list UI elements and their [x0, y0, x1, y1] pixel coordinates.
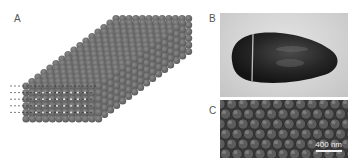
- sphere: [131, 55, 138, 62]
- micro-sphere: [243, 129, 253, 139]
- micro-sphere-highlight: [251, 100, 255, 104]
- micro-sphere-highlight: [326, 110, 330, 114]
- sphere: [62, 115, 69, 122]
- dot: [56, 112, 58, 114]
- dot: [63, 92, 65, 94]
- micro-sphere-highlight: [320, 120, 324, 124]
- micro-sphere-highlight: [222, 130, 226, 134]
- dot: [84, 92, 86, 94]
- micro-sphere: [289, 129, 299, 139]
- sphere: [36, 115, 43, 122]
- micro-sphere-highlight: [343, 100, 347, 104]
- micro-sphere: [220, 109, 230, 119]
- dot: [77, 112, 79, 114]
- sphere-array-schematic: [0, 0, 200, 162]
- panel-label-c: C: [209, 106, 216, 116]
- micro-sphere-highlight: [268, 110, 272, 114]
- sphere: [155, 37, 162, 44]
- sphere: [82, 115, 89, 122]
- micro-sphere-highlight: [245, 110, 249, 114]
- micro-sphere: [220, 119, 225, 129]
- sphere: [137, 51, 144, 58]
- micro-sphere-highlight: [326, 130, 330, 134]
- micro-sphere: [347, 149, 348, 158]
- micro-sphere-highlight: [263, 100, 267, 104]
- sphere-grid: [22, 15, 192, 123]
- micro-sphere-highlight: [343, 120, 347, 124]
- dot: [77, 105, 79, 107]
- dot: [84, 105, 86, 107]
- sphere: [119, 64, 126, 71]
- micro-sphere-highlight: [234, 130, 238, 134]
- micro-sphere-highlight: [257, 150, 261, 154]
- micro-sphere-highlight: [234, 110, 238, 114]
- sphere: [113, 69, 120, 76]
- sphere: [49, 115, 56, 122]
- micro-sphere-highlight: [291, 150, 295, 154]
- sphere: [167, 28, 174, 35]
- micro-sphere-highlight: [303, 150, 307, 154]
- micro-sphere: [278, 109, 288, 119]
- sphere: [69, 115, 76, 122]
- dot: [63, 98, 65, 100]
- dot: [56, 105, 58, 107]
- micro-sphere: [220, 100, 225, 109]
- micro-sphere-highlight: [309, 100, 313, 104]
- photo-panel-b: [220, 13, 348, 97]
- micro-sphere: [335, 109, 345, 119]
- dot: [49, 92, 51, 94]
- dot: [84, 112, 86, 114]
- sphere: [125, 60, 132, 67]
- micro-sphere-highlight: [303, 130, 307, 134]
- scale-bar: 400 nm: [315, 140, 342, 152]
- micro-sphere: [261, 119, 271, 129]
- sphere: [95, 82, 102, 89]
- micro-sphere-highlight: [240, 100, 244, 104]
- sphere: [95, 109, 102, 116]
- dot: [42, 92, 44, 94]
- panel-label-b: B: [209, 14, 216, 24]
- micro-sphere: [226, 139, 236, 149]
- micro-sphere-highlight: [286, 100, 290, 104]
- micro-sphere-highlight: [257, 110, 261, 114]
- dot: [35, 98, 37, 100]
- micro-sphere: [238, 139, 248, 149]
- micro-sphere: [324, 109, 334, 119]
- micro-sphere: [249, 139, 259, 149]
- micro-sphere: [295, 119, 305, 129]
- sphere: [42, 115, 49, 122]
- sphere: [95, 89, 102, 96]
- micro-sphere-highlight: [268, 150, 272, 154]
- micro-sphere-highlight: [309, 120, 313, 124]
- micro-sphere-highlight: [251, 140, 255, 144]
- micro-sphere-highlight: [274, 140, 278, 144]
- micro-sphere: [266, 129, 276, 139]
- micro-sphere-highlight: [291, 110, 295, 114]
- micro-sphere: [255, 129, 265, 139]
- sphere: [95, 115, 102, 122]
- scale-bar-label: 400 nm: [315, 140, 342, 149]
- sphere: [75, 115, 82, 122]
- dot: [70, 112, 72, 114]
- micro-sphere-highlight: [274, 100, 278, 104]
- micro-sphere: [312, 129, 322, 139]
- ovoid-object: [220, 13, 348, 97]
- micro-sphere: [335, 129, 345, 139]
- scale-bar-line: [316, 150, 342, 152]
- micro-sphere-highlight: [222, 110, 226, 114]
- dot: [49, 105, 51, 107]
- micro-sphere: [284, 119, 294, 129]
- micro-sphere-highlight: [297, 100, 301, 104]
- micro-sphere-highlight: [228, 140, 232, 144]
- micro-sphere-highlight: [251, 120, 255, 124]
- micro-sphere-highlight: [245, 130, 249, 134]
- dot: [42, 112, 44, 114]
- micro-sphere-highlight: [314, 130, 318, 134]
- micro-sphere: [238, 119, 248, 129]
- micro-sphere-highlight: [240, 120, 244, 124]
- micro-sphere-highlight: [263, 120, 267, 124]
- dot: [42, 105, 44, 107]
- sphere: [173, 24, 180, 31]
- dot: [56, 98, 58, 100]
- micro-sphere-highlight: [332, 100, 336, 104]
